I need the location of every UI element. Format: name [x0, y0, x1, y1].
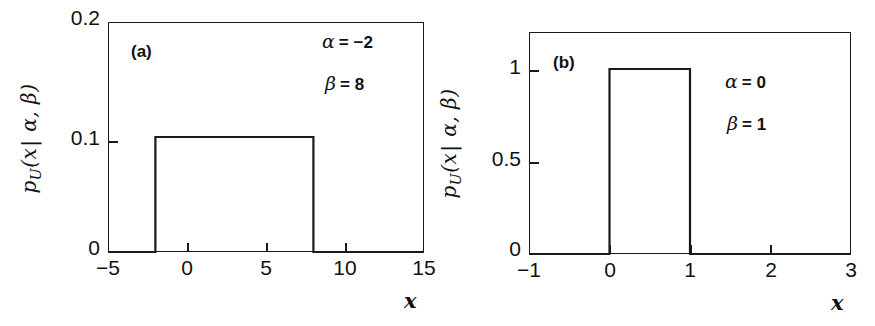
data-curve-a [0, 0, 440, 326]
panel-a: pU(x| α, β) 0.2 0.1 0 −5 0 5 10 15 x (a)… [0, 0, 440, 326]
panel-b: pU(x| α, β) 1 0.5 0 −1 0 1 2 3 x (b) α= … [435, 0, 875, 326]
data-curve-b [435, 0, 875, 326]
uniform-distribution-figure: pU(x| α, β) 0.2 0.1 0 −5 0 5 10 15 x (a)… [0, 0, 875, 326]
